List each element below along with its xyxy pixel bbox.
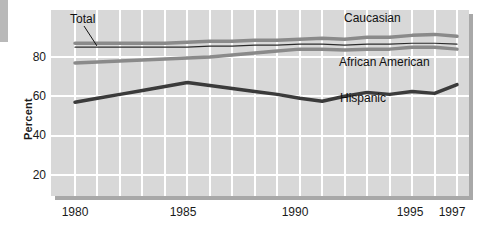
x-tick-1997: 1997 bbox=[429, 205, 475, 219]
chart-figure: Percent 80 60 40 20 1980 1985 1990 1995 … bbox=[0, 0, 492, 244]
y-tick-20: 20 bbox=[16, 168, 46, 182]
y-tick-60: 60 bbox=[16, 89, 46, 103]
plot-area bbox=[51, 10, 469, 196]
x-tick-1995: 1995 bbox=[387, 205, 433, 219]
page-edge-strip bbox=[0, 0, 8, 42]
series-lines bbox=[51, 10, 469, 196]
x-tick-1985: 1985 bbox=[160, 205, 206, 219]
x-tick-1980: 1980 bbox=[52, 205, 98, 219]
series-label-african-american: African American bbox=[339, 55, 430, 69]
series-line-caucasian bbox=[75, 34, 457, 43]
series-label-caucasian: Caucasian bbox=[344, 11, 401, 25]
y-tick-40: 40 bbox=[16, 128, 46, 142]
series-line-hispanic bbox=[75, 83, 457, 103]
x-tick-1990: 1990 bbox=[272, 205, 318, 219]
y-tick-80: 80 bbox=[16, 50, 46, 64]
series-label-hispanic: Hispanic bbox=[340, 91, 386, 105]
series-label-total: Total bbox=[70, 12, 95, 26]
